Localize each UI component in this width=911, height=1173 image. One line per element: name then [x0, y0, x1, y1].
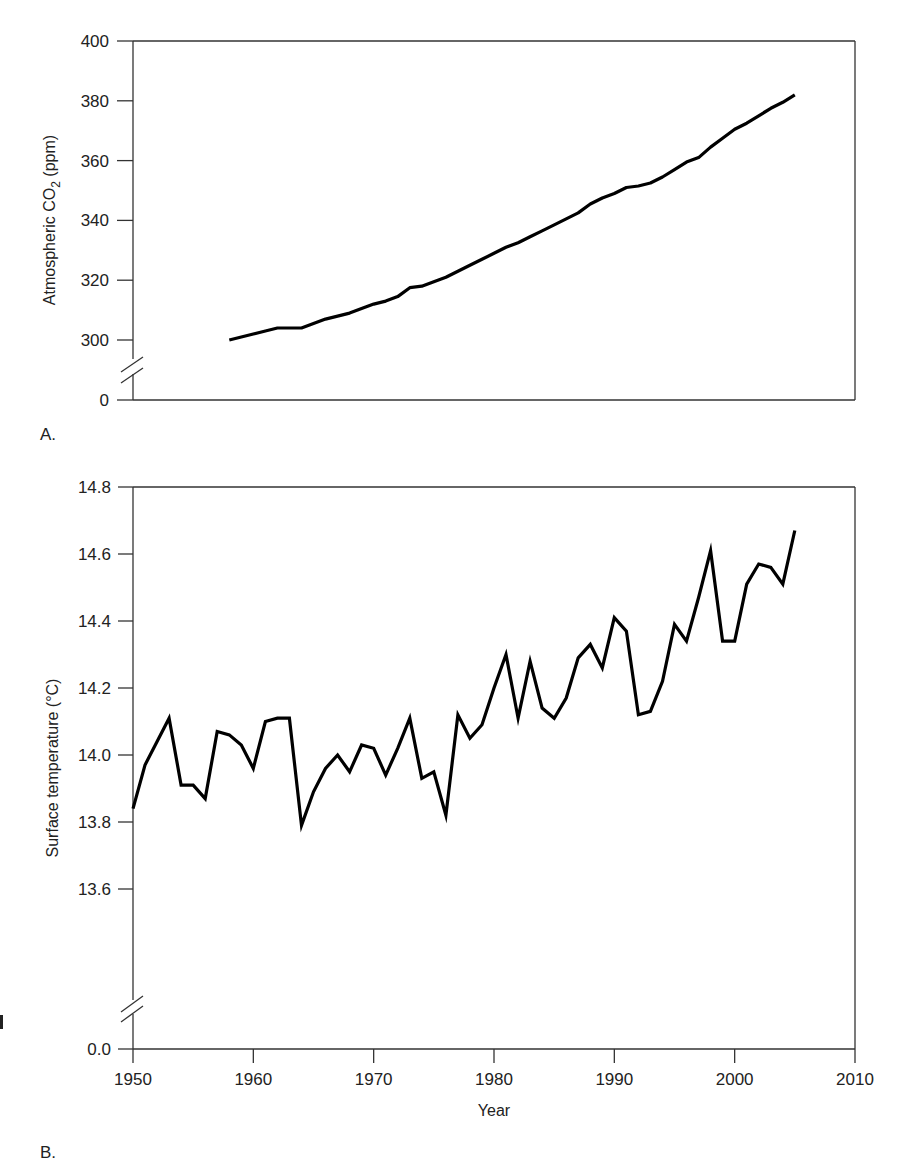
y-tick-label: 14.2 — [78, 679, 111, 698]
y-tick-label: 340 — [81, 211, 109, 230]
y-tick-label: 14.6 — [78, 545, 111, 564]
panel-label-a: A. — [40, 425, 56, 444]
x-tick-label: 1990 — [595, 1070, 633, 1089]
chart-b: 13.613.814.014.214.414.614.80.0195019601… — [40, 478, 874, 1162]
y-tick-label: 13.8 — [78, 813, 111, 832]
axis-break-icon — [121, 1006, 143, 1022]
y-tick-label: 14.8 — [78, 478, 111, 497]
x-tick-label: 2010 — [836, 1070, 874, 1089]
y-tick-label: 300 — [81, 331, 109, 350]
x-axis-title: Year — [478, 1102, 511, 1119]
y-tick-label: 14.4 — [78, 612, 111, 631]
y-tick-label: 360 — [81, 152, 109, 171]
y-tick-label: 0.0 — [87, 1040, 111, 1059]
co2-line — [229, 95, 795, 340]
y-axis-title: Surface temperature (°C) — [44, 679, 61, 858]
figure-canvas: 3003203403603804000Atmospheric CO2 (ppm)… — [0, 0, 911, 1173]
x-tick-label: 1960 — [234, 1070, 272, 1089]
x-tick-label: 1980 — [475, 1070, 513, 1089]
chart-a: 3003203403603804000Atmospheric CO2 (ppm)… — [40, 32, 855, 444]
axis-break-icon — [121, 996, 143, 1012]
y-tick-label: 0 — [100, 391, 109, 410]
temperature-line — [133, 531, 795, 826]
y-tick-label: 400 — [81, 32, 109, 51]
x-tick-label: 1970 — [355, 1070, 393, 1089]
y-tick-label: 14.0 — [78, 746, 111, 765]
margin-mark — [0, 1015, 3, 1029]
x-tick-label: 2000 — [716, 1070, 754, 1089]
y-tick-label: 380 — [81, 92, 109, 111]
x-tick-label: 1950 — [114, 1070, 152, 1089]
panel-label-b: B. — [40, 1143, 56, 1162]
y-tick-label: 13.6 — [78, 880, 111, 899]
y-tick-label: 320 — [81, 271, 109, 290]
y-axis-title: Atmospheric CO2 (ppm) — [41, 135, 63, 305]
